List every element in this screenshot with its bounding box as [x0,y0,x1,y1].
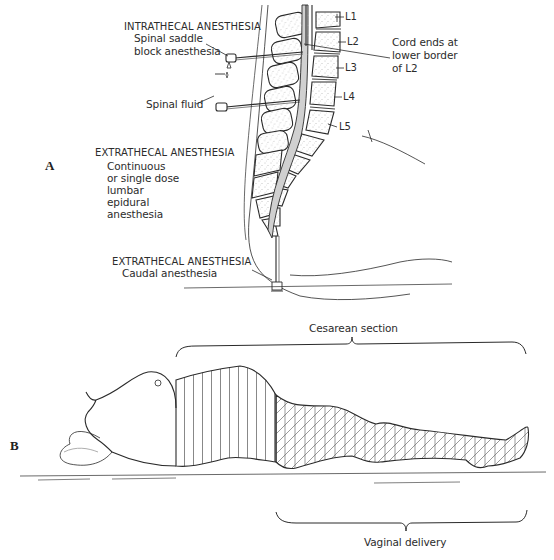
patient-silhouette [20,337,546,531]
vaginal-delivery-label: Vaginal delivery [364,536,446,549]
anesthesia-diagram: A INTRATHECAL ANESTHESIA Spinal saddle b… [0,0,554,560]
panel-b-letter: B [10,438,19,454]
vertebra-l5: L5 [339,121,351,132]
vertebra-l1: L1 [345,11,357,22]
extrathecal-lumbar-line5: anesthesia [107,208,163,221]
extrathecal-caudal-line1: Caudal anesthesia [122,267,217,280]
vertebra-l2: L2 [347,36,359,47]
vertebra-l4: L4 [343,91,355,102]
spinal-fluid-label: Spinal fluid [146,98,203,111]
intrathecal-line1: Spinal saddle [134,32,203,45]
illustration [0,0,554,560]
extrathecal-lumbar-heading: EXTRATHECAL ANESTHESIA [95,146,235,159]
panel-a-letter: A [45,158,54,174]
cord-note-line3: of L2 [392,62,418,75]
cord-note-line1: Cord ends at [392,36,458,49]
vertebra-l3: L3 [345,62,357,73]
intrathecal-line2: block anesthesia [134,45,221,58]
cesarean-section-label: Cesarean section [309,322,398,335]
cord-note-line2: lower border [392,49,458,62]
